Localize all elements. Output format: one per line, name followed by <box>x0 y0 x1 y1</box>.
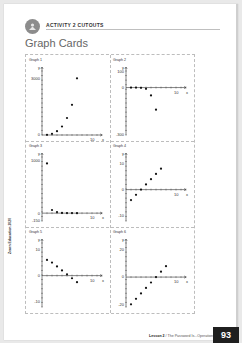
scatter-plot: yx10100-10 <box>110 141 194 227</box>
svg-text:0: 0 <box>38 132 41 137</box>
svg-text:y: y <box>38 65 40 70</box>
svg-text:0: 0 <box>122 274 125 279</box>
graph-cards-grid: Graph 1 yx1030000 Graph 2 yx101000-300 G… <box>25 54 195 314</box>
graph-card-5: Graph 5 yx10100-10 <box>26 227 110 313</box>
svg-text:20: 20 <box>120 247 125 252</box>
svg-text:x: x <box>186 279 188 284</box>
side-copyright: Zearn Education 2020 <box>8 218 12 254</box>
svg-text:10: 10 <box>174 90 179 95</box>
footer-lesson-topic: The Password Is...Operations! <box>168 334 216 338</box>
graph-card-2: Graph 2 yx101000-300 <box>110 55 194 141</box>
svg-text:0: 0 <box>122 85 125 90</box>
svg-text:100: 100 <box>117 69 124 74</box>
page-number: 93 <box>213 327 239 343</box>
svg-text:10: 10 <box>174 192 179 197</box>
svg-text:3000: 3000 <box>31 76 41 81</box>
graph-card-1: Graph 1 yx1030000 <box>26 55 110 141</box>
svg-text:y: y <box>122 151 124 156</box>
svg-text:x: x <box>186 90 188 95</box>
svg-text:-300: -300 <box>116 132 125 137</box>
svg-text:0: 0 <box>122 187 125 192</box>
worksheet-page: ACTIVITY 2 CUTOUTS Graph Cards Graph 1 y… <box>4 4 238 340</box>
svg-text:10: 10 <box>36 247 41 252</box>
svg-text:-150: -150 <box>32 218 41 223</box>
svg-text:-10: -10 <box>34 299 41 304</box>
activity-badge <box>25 19 40 34</box>
activity-label: ACTIVITY 2 CUTOUTS <box>46 22 104 28</box>
footer-lesson-number: Lesson 2 <box>149 334 165 338</box>
svg-text:x: x <box>102 215 104 220</box>
svg-text:10: 10 <box>120 161 125 166</box>
svg-text:y: y <box>38 237 40 242</box>
svg-text:10: 10 <box>90 215 95 220</box>
svg-text:10: 10 <box>90 278 95 283</box>
graph-card-4: Graph 4 yx10100-10 <box>110 141 194 227</box>
scatter-plot: yx10200-20 <box>110 227 194 313</box>
scatter-plot: yx10100-10 <box>26 227 110 313</box>
svg-text:y: y <box>122 237 124 242</box>
svg-text:-10: -10 <box>118 213 125 218</box>
svg-text:0: 0 <box>38 273 41 278</box>
svg-text:y: y <box>38 151 40 156</box>
svg-text:10: 10 <box>174 279 179 284</box>
scatter-plot: yx1010000-150 <box>26 141 110 227</box>
svg-text:x: x <box>102 278 104 283</box>
svg-text:1000: 1000 <box>31 158 41 163</box>
graph-card-3: Graph 3 yx1010000-150 <box>26 141 110 227</box>
svg-text:x: x <box>186 192 188 197</box>
activity-badge-icon <box>28 22 37 31</box>
header-rule <box>46 29 220 30</box>
svg-text:-20: -20 <box>118 302 125 307</box>
scatter-plot: yx101000-300 <box>110 55 194 141</box>
graph-card-6: Graph 6 yx10200-20 <box>110 227 194 313</box>
footer-lesson: Lesson 2 / The Password Is...Operations! <box>149 334 216 338</box>
svg-text:0: 0 <box>38 211 41 216</box>
page-title: Graph Cards <box>25 37 88 49</box>
scatter-plot: yx1030000 <box>26 55 110 141</box>
